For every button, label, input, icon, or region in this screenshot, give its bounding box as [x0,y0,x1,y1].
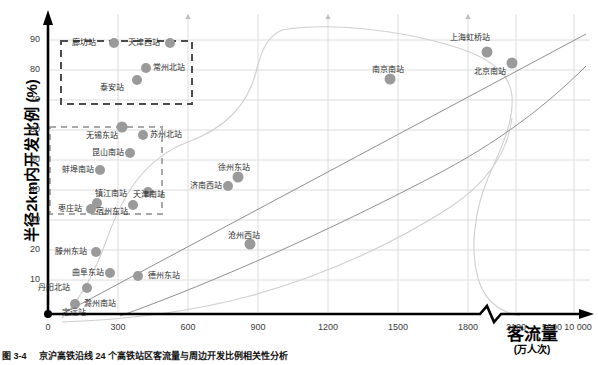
point-label-suzhoudong: 宿州东站 [96,208,128,216]
point-label-qufudong: 曲阜东站 [72,269,104,277]
point-label-suzhoubei: 苏州北站 [150,131,182,139]
y-tick: 80 [14,64,40,74]
point-label-zhenjiangnan: 镇江南站 [95,190,127,198]
data-point [165,38,175,48]
figure-container: 半径2km内开发比例 (%) 客流量 (万人次) 10 20 30 40 50 … [0,0,598,365]
data-point [223,181,233,191]
point-label-wuxidong: 无锡东站 [86,132,118,140]
data-point [86,204,96,214]
data-point [125,148,135,158]
x-axis-unit: (万人次) [472,345,592,356]
y-tick: 10 [14,274,40,284]
point-label-cangzhouxi: 沧州西站 [228,232,260,240]
gridline-arrow-caps [186,14,471,19]
point-label-danyangbei: 丹阳北站 [38,284,70,292]
point-label-chuzhounan: 滁州南站 [84,300,116,308]
data-point [95,165,105,175]
data-points [70,38,518,309]
point-label-shanghaihongqiao: 上海虹桥站 [450,34,490,42]
point-label-tengzhoudong: 滕州东站 [55,248,87,256]
point-label-tianjinxi: 天津西站 [128,39,160,47]
x-tick: 600 [166,322,210,332]
data-point [141,63,151,73]
data-point [132,75,142,85]
point-label-xuzhoudong: 徐州东站 [218,164,250,172]
data-point [507,58,518,69]
chart-svg [0,0,598,365]
point-label-changzhoubei: 常州北站 [153,64,185,72]
point-label-kunshannan: 昆山南站 [92,149,124,157]
data-point [128,200,138,210]
point-label-dingyuan: 定远站 [62,309,86,317]
point-label-zaozhuang: 枣庄站 [58,205,82,213]
point-label-bengbunan: 蚌埠南站 [62,166,94,174]
x-tick: 300 [96,322,140,332]
data-point [91,247,101,257]
x-tick: 0 [26,322,70,332]
x-tick: 10 000 [556,322,598,332]
data-point [138,130,148,140]
y-tick: 70 [14,94,40,104]
data-point [133,271,143,281]
x-tick: 1800 [446,322,490,332]
y-tick: 20 [14,244,40,254]
y-tick: 40 [14,184,40,194]
point-label-langfang: 廊坊站 [72,39,96,47]
point-label-nanjingnan: 南京南站 [372,66,404,74]
axes [43,10,594,322]
data-point [105,268,115,278]
data-point [109,38,119,48]
point-label-dezhoudong: 德州东站 [148,272,180,280]
point-label-beijingnan: 北京南站 [474,68,506,76]
point-label-taian: 泰安站 [100,84,124,92]
y-tick: 90 [14,34,40,44]
data-point [233,172,244,183]
point-label-jinanxi: 济南西站 [190,182,222,190]
x-tick: 900 [236,322,280,332]
data-point [482,47,493,58]
figure-caption-text: 京沪高铁沿线 24 个高铁站区客流量与周边开发比例相关性分析 [39,351,288,361]
data-point [117,122,128,133]
point-label-tianjinnan: 天津南站 [133,191,165,199]
y-tick: 30 [14,214,40,224]
annotation-box-high [61,41,192,104]
x-tick: 1500 [376,322,420,332]
data-point [385,74,396,85]
data-point [82,283,92,293]
y-tick: 60 [14,124,40,134]
data-point [245,239,256,250]
figure-number: 图 3-4 [2,351,27,361]
figure-caption: 图 3-4 京沪高铁沿线 24 个高铁站区客流量与周边开发比例相关性分析 [2,349,288,365]
x-tick: 1200 [306,322,350,332]
y-tick: 50 [14,154,40,164]
